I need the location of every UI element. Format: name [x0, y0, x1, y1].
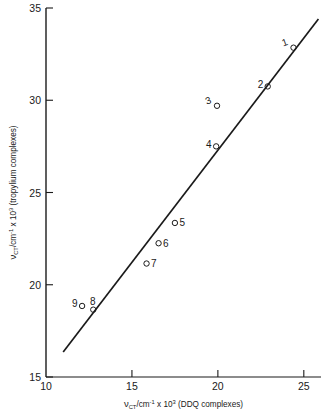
fit-line — [63, 19, 318, 352]
y-tick-label: 25 — [29, 187, 41, 199]
data-point-marker-3 — [214, 103, 219, 108]
data-point-marker-4 — [213, 144, 218, 149]
data-point-marker-1 — [291, 45, 296, 50]
data-point-label-4: 4 — [206, 139, 212, 150]
data-point-label-6: 6 — [163, 238, 169, 249]
data-point-label-2: 2 — [258, 79, 264, 90]
x-tick-label: 20 — [212, 380, 224, 392]
svg-text:νCT/cm-1 x 103 (DDQ complexes): νCT/cm-1 x 103 (DDQ complexes) — [124, 398, 243, 410]
chart-figure: 152025303510152025123456789νCT/cm-1 x 10… — [0, 0, 335, 415]
data-point-marker-5 — [172, 220, 177, 225]
data-point-label-5: 5 — [179, 217, 185, 228]
x-tick-label: 10 — [40, 380, 52, 392]
y-tick-label: 20 — [29, 279, 41, 291]
svg-text:νCT/cm-1 x 103 (tropylium comp: νCT/cm-1 x 103 (tropylium complexes) — [7, 125, 19, 259]
data-point-label-9: 9 — [72, 298, 78, 309]
scatter-plot-canvas: 152025303510152025123456789νCT/cm-1 x 10… — [0, 0, 335, 415]
data-point-marker-6 — [156, 241, 161, 246]
data-point-marker-7 — [144, 261, 149, 266]
data-point-label-1: 1 — [280, 36, 289, 48]
y-tick-label: 35 — [29, 2, 41, 14]
data-point-label-3: 3 — [204, 94, 213, 106]
y-axis-title: νCT/cm-1 x 103 (tropylium complexes) — [7, 125, 19, 259]
data-point-label-7: 7 — [151, 258, 157, 269]
y-tick-label: 30 — [29, 94, 41, 106]
data-point-marker-9 — [79, 303, 84, 308]
x-axis-title: νCT/cm-1 x 103 (DDQ complexes) — [124, 398, 243, 410]
data-point-label-8: 8 — [90, 296, 96, 307]
x-tick-label: 15 — [126, 380, 138, 392]
x-tick-label: 25 — [298, 380, 310, 392]
